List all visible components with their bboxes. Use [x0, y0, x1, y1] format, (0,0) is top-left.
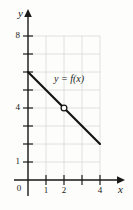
x-tick-label-1: 1	[40, 186, 52, 195]
y-tick-label-1: 1	[8, 157, 20, 166]
x-tick-label-2: 2	[58, 186, 70, 195]
x-tick-label-4: 4	[94, 186, 106, 195]
function-graph-figure: y x 8 4 1 0 1 2 4 y = f(x)	[0, 0, 133, 210]
y-axis-label: y	[18, 8, 23, 19]
open-circle-marker	[61, 105, 67, 111]
y-tick-label-8: 8	[8, 31, 20, 40]
y-axis-arrow	[24, 9, 32, 17]
function-equation-label: y = f(x)	[54, 74, 84, 84]
y-tick-label-4: 4	[8, 103, 20, 112]
x-axis-label: x	[118, 184, 123, 195]
origin-tick-label: 0	[14, 184, 24, 193]
